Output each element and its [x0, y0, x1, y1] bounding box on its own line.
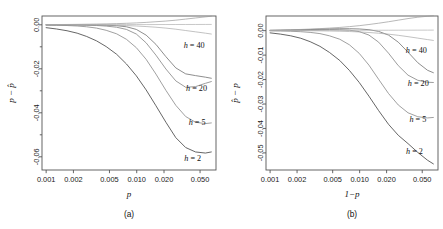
figure-container: 0.0010.0020.0050.0100.0200.0500.00-0.02-…: [0, 0, 443, 229]
curve-label: h = 40: [406, 46, 427, 55]
x-axis-title: 1−p: [344, 189, 360, 199]
y-tick-label: -0.04: [256, 120, 265, 137]
curve-label: h = 40: [184, 41, 205, 50]
x-tick-label: 0.001: [37, 175, 56, 184]
y-tick-label: -0.02: [256, 71, 265, 88]
panel-caption: (b): [347, 209, 357, 219]
x-tick-label: 0.002: [288, 175, 307, 184]
curve-label: h = 20: [186, 84, 207, 93]
curve-label: h = 2: [406, 147, 423, 156]
x-tick-label: 0.002: [64, 175, 83, 184]
curve-near-zero-1: [46, 16, 211, 24]
curve-near-zero-1: [270, 16, 433, 30]
y-tick-label: -0.01: [256, 47, 265, 64]
curve-h=40: [46, 25, 211, 78]
curve-label: h = 5: [409, 115, 426, 124]
x-axis-title: p: [126, 189, 132, 199]
y-axis-title: p − p̂: [6, 83, 16, 104]
plot-a: 0.0010.0020.0050.0100.0200.0500.00-0.02-…: [0, 0, 221, 229]
panel-caption: (a): [124, 209, 134, 219]
curve-near-zero-3: [270, 31, 433, 41]
plot-frame: [42, 16, 216, 170]
curve-label: h = 2: [184, 154, 201, 163]
y-axis-title: p̂ − p: [230, 83, 240, 104]
x-tick-label: 0.010: [127, 175, 146, 184]
x-tick-label: 0.050: [191, 175, 210, 184]
curve-label: h = 20: [408, 79, 429, 88]
x-tick-label: 0.010: [350, 175, 369, 184]
y-tick-label: -0.03: [256, 96, 265, 113]
curve-near-zero-3: [46, 25, 211, 34]
curve-h=5: [270, 31, 433, 118]
x-tick-label: 0.005: [323, 175, 342, 184]
x-tick-label: 0.001: [261, 175, 280, 184]
y-tick-label: 0.00: [256, 23, 265, 37]
y-tick-label: -0.06: [32, 148, 41, 165]
plot-b: 0.0010.0020.0050.0100.0200.0500.00-0.01-…: [222, 0, 443, 229]
x-tick-label: 0.020: [155, 175, 174, 184]
panel-b: 0.0010.0020.0050.0100.0200.0500.00-0.01-…: [222, 0, 443, 229]
curve-h=20: [46, 25, 211, 87]
y-tick-label: -0.04: [32, 104, 41, 121]
curve-label: h = 5: [189, 118, 206, 127]
x-tick-label: 0.020: [377, 175, 396, 184]
x-tick-label: 0.005: [100, 175, 119, 184]
y-tick-label: -0.05: [256, 144, 265, 161]
y-tick-label: 0.00: [32, 18, 41, 32]
curve-h=20: [270, 30, 433, 83]
panel-a: 0.0010.0020.0050.0100.0200.0500.00-0.02-…: [0, 0, 221, 229]
x-tick-label: 0.050: [413, 175, 432, 184]
y-tick-label: -0.02: [32, 60, 41, 77]
